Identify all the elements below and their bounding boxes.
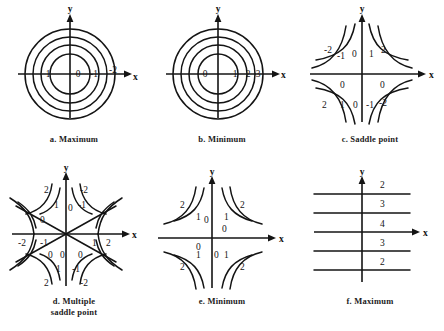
panel-d-x-axis-label: x: [132, 230, 137, 240]
panel-a-level-m1: -1: [90, 69, 98, 79]
panel-c-level-bot-1: 1: [340, 100, 345, 110]
panel-d-level-bottom-m2: -2: [80, 278, 88, 288]
panel-f-svg: 2 3 4 3 2 x y: [296, 166, 444, 294]
panel-b-plot: 0 1 2 3 x y: [148, 0, 296, 128]
panel-f-level-3-bot: 3: [380, 238, 385, 248]
panel-e-q4-level-2: 2: [240, 262, 245, 272]
panel-f-x-axis-label: x: [423, 228, 428, 238]
panel-e-level-0-d: 0: [214, 250, 219, 260]
panel-f-plot: 2 3 4 3 2 x y: [296, 166, 444, 294]
panel-d-level-upper-side-0: 0: [40, 215, 45, 225]
panel-b-y-axis-label: y: [216, 4, 221, 14]
panel-c-level-top-0: 0: [352, 49, 357, 59]
panel-e-svg: 2 1 2 1 2 1 2 1 0 0 0 0 x y: [148, 166, 296, 294]
panel-a-maximum: 1 0 -1 -2 x y a. Maximum: [0, 0, 148, 165]
panel-c-y-axis-label: y: [360, 4, 365, 14]
panel-b-level-0: 0: [203, 69, 208, 79]
panel-f-level-3-top: 3: [380, 199, 385, 209]
panel-c-level-bot-m1: -1: [366, 100, 374, 110]
panel-c-level-mid-right-0: 0: [380, 80, 385, 90]
panel-d-axis-2: 2: [106, 238, 111, 248]
panel-e-level-0-b: 0: [222, 224, 227, 234]
panel-d-level-top-left-2: 2: [44, 185, 49, 195]
panel-f-caption: f. Maximum: [296, 296, 444, 307]
panel-e-axes: [158, 176, 276, 288]
panel-d-multiple-saddle-point: 2 -2 1 0 -1 0 -2 -1 1 2 0 0 0 1 -1 2: [0, 166, 148, 331]
panel-a-plot: 1 0 -1 -2 x y: [0, 0, 148, 128]
panel-b-svg: 0 1 2 3 x y: [148, 0, 296, 128]
panel-c-level-top-1: 1: [369, 49, 374, 59]
panel-f-maximum: 2 3 4 3 2 x y f. Maximum: [296, 166, 444, 331]
panel-d-level-top-m1: -1: [78, 200, 86, 210]
panel-e-caption-line1: e. Minimum: [199, 296, 245, 306]
panel-e-q1-level-1: 1: [224, 212, 229, 222]
panel-c-level-top-2: 2: [381, 45, 386, 55]
panel-d-svg: 2 -2 1 0 -1 0 -2 -1 1 2 0 0 0 1 -1 2: [0, 166, 148, 294]
panel-d-axis-1: 1: [92, 238, 97, 248]
panel-d-axis-m2: -2: [18, 238, 26, 248]
panel-e-plot: 2 1 2 1 2 1 2 1 0 0 0 0 x y: [148, 166, 296, 294]
panel-e-level-0-c: 0: [196, 242, 201, 252]
panel-c-level-bot-0: 0: [353, 100, 358, 110]
panel-b-level-2: 2: [246, 69, 251, 79]
panel-f-level-2-top: 2: [380, 180, 385, 190]
panel-d-caption: d. Multiple saddle point: [0, 296, 148, 317]
panel-d-level-low-0b: 0: [60, 250, 65, 260]
panel-d-y-axis-label: y: [64, 163, 69, 173]
panel-c-plot: -2 -1 0 1 2 0 0 2 1 0 -1 -2 x y: [296, 0, 444, 128]
panel-e-caption: e. Minimum: [148, 296, 296, 307]
panel-a-level-m2: -2: [109, 65, 117, 75]
panel-d-level-low-0a: 0: [48, 250, 53, 260]
panel-f-axes: [314, 176, 420, 282]
panel-b-level-1: 1: [233, 69, 238, 79]
panel-a-level-1: 1: [46, 69, 51, 79]
panel-d-axes: [12, 172, 130, 286]
panel-a-caption: a. Maximum: [0, 134, 148, 145]
panel-a-level-0: 0: [76, 69, 81, 79]
panel-b-minimum: 0 1 2 3 x y b. Minimum: [148, 0, 296, 165]
panel-c-caption-line1: c. Saddle point: [342, 134, 399, 144]
panel-d-level-low-m1: -1: [72, 264, 80, 274]
panel-a-x-axis-label: x: [133, 72, 138, 82]
panel-e-q2-level-1: 1: [196, 212, 201, 222]
panel-b-caption-line1: b. Minimum: [198, 134, 245, 144]
panel-c-level-mid-left-0: 0: [340, 80, 345, 90]
panel-d-caption-line1: d. Multiple: [53, 296, 95, 306]
panel-f-level-2-bot: 2: [380, 257, 385, 267]
panel-d-level-bottom-2: 2: [44, 278, 49, 288]
panel-c-svg: -2 -1 0 1 2 0 0 2 1 0 -1 -2 x y: [296, 0, 444, 128]
panel-e-minimum: 2 1 2 1 2 1 2 1 0 0 0 0 x y e. Minimu: [148, 166, 296, 331]
panel-c-level-bot-2: 2: [322, 100, 327, 110]
panel-c-level-top-m2: -2: [324, 45, 332, 55]
panel-d-level-top-right-m2: -2: [80, 185, 88, 195]
panel-e-q4-level-1: 1: [224, 250, 229, 260]
panel-c-x-axis-label: x: [429, 70, 434, 80]
panel-c-saddle-point: -2 -1 0 1 2 0 0 2 1 0 -1 -2 x y c. S: [296, 0, 444, 165]
panel-e-y-axis-label: y: [210, 167, 215, 177]
panel-b-x-axis-label: x: [281, 70, 286, 80]
panel-f-level-4: 4: [380, 219, 385, 229]
panel-e-q2-level-2: 2: [180, 200, 185, 210]
figure-container: 1 0 -1 -2 x y a. Maximum: [0, 0, 444, 331]
panel-b-level-3: 3: [256, 69, 261, 79]
panel-f-y-axis-label: y: [360, 167, 365, 177]
panel-d-level-top-1: 1: [54, 200, 59, 210]
panel-a-caption-line1: a. Maximum: [50, 134, 98, 144]
panel-f-caption-line1: f. Maximum: [347, 296, 394, 306]
panel-b-caption: b. Minimum: [148, 134, 296, 145]
panel-d-caption-line2: saddle point: [51, 307, 98, 317]
panel-e-x-axis-label: x: [279, 234, 284, 244]
panel-d-level-low-1: 1: [56, 264, 61, 274]
panel-e-q1-level-2: 2: [240, 200, 245, 210]
panel-a-y-axis-label: y: [68, 4, 73, 14]
panel-c-level-bot-m2: -2: [379, 98, 387, 108]
panel-d-plot: 2 -2 1 0 -1 0 -2 -1 1 2 0 0 0 1 -1 2: [0, 166, 148, 294]
panel-e-level-0-a: 0: [204, 215, 209, 225]
panel-d-level-top-0: 0: [68, 203, 73, 213]
panel-d-level-low-0c: 0: [78, 250, 83, 260]
panel-a-svg: 1 0 -1 -2 x y: [0, 0, 148, 128]
panel-grid: 1 0 -1 -2 x y a. Maximum: [0, 0, 444, 331]
panel-c-level-top-m1: -1: [337, 51, 345, 61]
panel-d-axis-m1: -1: [40, 238, 48, 248]
panel-e-q3-level-2: 2: [180, 262, 185, 272]
